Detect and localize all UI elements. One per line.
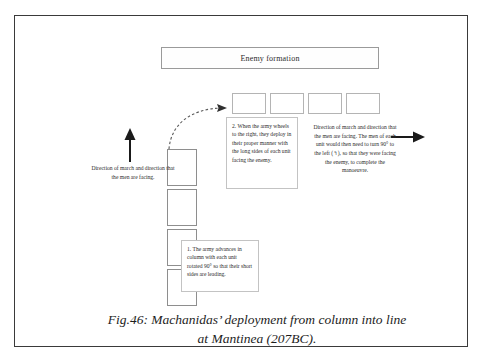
left-direction-label: Direction of march and direction that th…: [91, 164, 175, 181]
deployed-unit-box: [270, 93, 304, 114]
note-box-one: 1. The army advances in column with each…: [181, 240, 259, 292]
figure-caption-line-2: at Mantinea (207BC).: [59, 329, 455, 348]
figure-frame: Enemy formation Direction of march and d…: [14, 15, 468, 347]
enemy-formation-label: Enemy formation: [240, 54, 299, 63]
column-unit-box: [167, 189, 197, 226]
arrow-up-icon: [123, 128, 137, 162]
curved-dashed-arrow-icon: [165, 102, 235, 150]
deployed-unit-box: [308, 93, 342, 114]
figure-caption: Fig.46: Machanidas’ deployment from colu…: [59, 310, 455, 348]
note-box-two: 2. When the army wheels to the right, th…: [226, 117, 298, 189]
enemy-formation-box: Enemy formation: [161, 47, 379, 69]
figure-caption-line-1: Fig.46: Machanidas’ deployment from colu…: [59, 310, 455, 329]
right-direction-label: Direction of march and direction that th…: [313, 123, 397, 175]
deployed-line-formation: [232, 93, 380, 114]
deployed-unit-box: [346, 93, 380, 114]
deployed-unit-box: [232, 93, 266, 114]
